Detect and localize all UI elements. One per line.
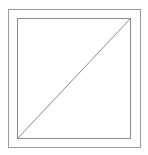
diagram-canvas: [0, 0, 148, 155]
diagonal-line: [18, 19, 131, 139]
